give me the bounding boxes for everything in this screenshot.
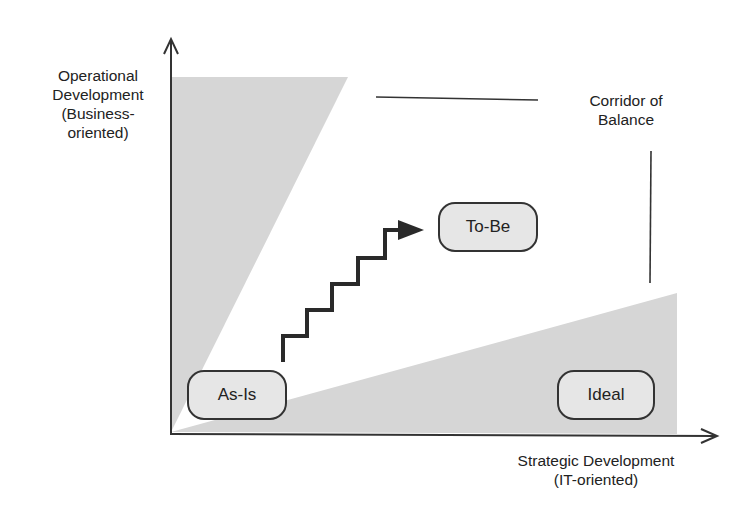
corridor-label-line: Balance [556, 110, 696, 129]
corridor-right-line [650, 151, 651, 283]
staircase-arrow-icon [398, 220, 424, 240]
corridor-label: Corridor of Balance [556, 91, 696, 129]
y-axis-label-line: oriented) [36, 123, 160, 142]
ideal-state: Ideal [557, 370, 655, 420]
corridor-top-line [376, 97, 538, 100]
x-axis-label-line: Strategic Development [486, 451, 706, 470]
y-axis-label: Operational Development (Business- orien… [36, 66, 160, 142]
y-axis-label-line: Development [36, 85, 160, 104]
x-axis-label-line: (IT-oriented) [486, 470, 706, 489]
x-axis-label: Strategic Development (IT-oriented) [486, 451, 706, 489]
y-axis-label-line: (Business- [36, 104, 160, 123]
staircase-path [283, 230, 402, 362]
to-be-state: To-Be [438, 202, 538, 252]
corridor-label-line: Corridor of [556, 91, 696, 110]
as-is-state: As-Is [187, 370, 287, 420]
y-axis-label-line: Operational [36, 66, 160, 85]
x-axis [170, 434, 716, 436]
